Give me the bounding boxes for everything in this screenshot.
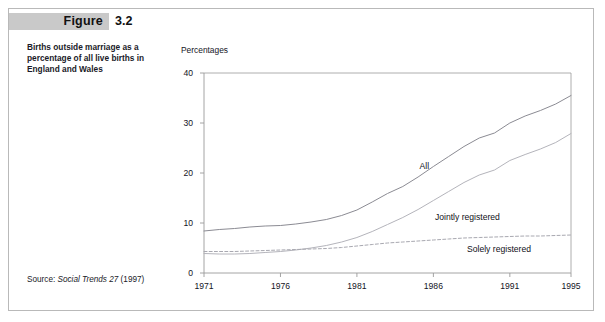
x-tick-label: 1986	[413, 281, 453, 291]
y-axis-title: Percentages	[181, 45, 228, 55]
y-tick-label: 40	[171, 68, 193, 78]
x-tick-label: 1991	[490, 281, 530, 291]
figure-frame: Figure 3.2 Births outside marriage as a …	[8, 8, 594, 311]
series-label-all: All	[420, 161, 430, 171]
y-tick-label: 30	[171, 118, 193, 128]
y-tick-label: 20	[171, 168, 193, 178]
series-group	[204, 96, 571, 255]
y-tick-label: 0	[171, 268, 193, 278]
x-tick-label: 1981	[337, 281, 377, 291]
x-tick-label: 1971	[184, 281, 224, 291]
series-label-jointly-registered: Jointly registered	[435, 212, 500, 222]
y-tick-label: 10	[171, 218, 193, 228]
x-tick-label: 1995	[551, 281, 591, 291]
series-label-solely-registered: Solely registered	[467, 244, 531, 254]
x-tick-label: 1976	[260, 281, 300, 291]
line-chart: Percentages 0102030401971197619811986199…	[9, 9, 595, 312]
series-line-all	[204, 96, 571, 232]
plot-canvas	[9, 9, 595, 312]
